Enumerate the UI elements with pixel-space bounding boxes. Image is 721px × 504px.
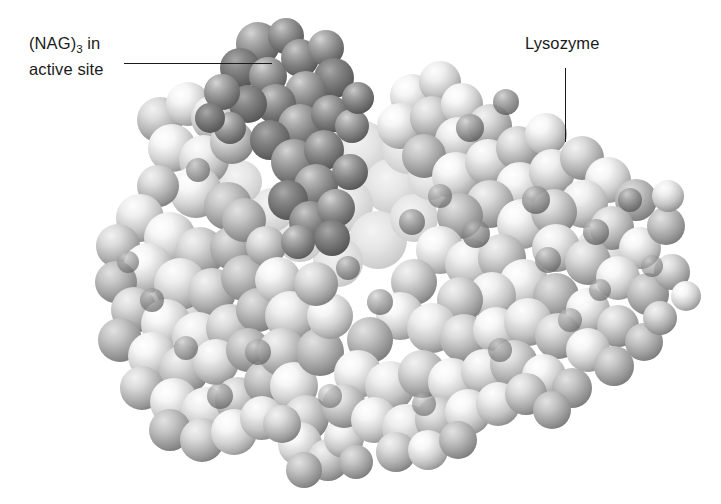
nag3-label-line2: active site [29, 59, 103, 79]
nag3-leader-line [124, 63, 272, 64]
molecule-space-filling-model [0, 0, 721, 504]
nag3-label-line1: (NAG)3 in [29, 33, 103, 59]
lysozyme-label: Lysozyme [525, 33, 599, 53]
lysozyme-figure: (NAG)3 in active site Lysozyme [0, 0, 721, 504]
lysozyme-leader-line [565, 68, 566, 142]
nag3-label: (NAG)3 in active site [29, 33, 103, 79]
